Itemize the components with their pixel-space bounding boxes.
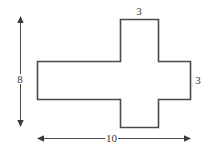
dimension-arrow-vertical-left: 8: [17, 16, 23, 127]
arrowhead-up-icon: [17, 16, 23, 23]
arrowhead-down-icon: [17, 120, 23, 127]
dimension-label-top-width: 3: [136, 5, 142, 17]
cross-polygon-diagram: 3 3 8 10: [0, 0, 208, 153]
geometry-figure-canvas: 3 3 8 10: [0, 0, 208, 153]
dimension-label-bottom-width: 10: [106, 132, 118, 144]
dimension-label-left-height: 8: [17, 73, 23, 85]
dimension-label-right-height: 3: [195, 74, 201, 86]
arrowhead-right-icon: [184, 135, 191, 141]
cross-polygon-shape: [38, 20, 191, 128]
dimension-arrow-horizontal-bottom: 10: [37, 132, 191, 144]
arrowhead-left-icon: [37, 135, 44, 141]
